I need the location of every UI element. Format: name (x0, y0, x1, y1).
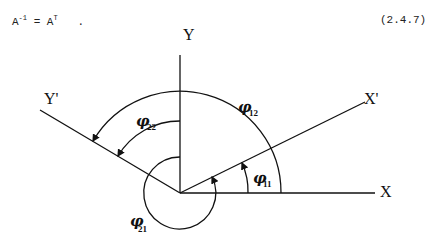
phi21-sub: 21 (138, 224, 148, 234)
x-prime-label: X' (364, 90, 379, 107)
x-prime-axis-line (180, 102, 365, 193)
rotation-diagram: Y X X' Y' φ 12 φ 22 φ 11 φ 21 (0, 0, 436, 242)
phi11-sub: 11 (263, 179, 272, 189)
phi12-sub: 12 (249, 108, 259, 118)
x-label: X (380, 183, 392, 200)
phi22-sub: 22 (147, 122, 157, 132)
phi11-arc (242, 163, 248, 193)
y-prime-axis-line (40, 110, 180, 193)
y-prime-label: Y' (44, 90, 59, 107)
y-label: Y (183, 26, 195, 43)
